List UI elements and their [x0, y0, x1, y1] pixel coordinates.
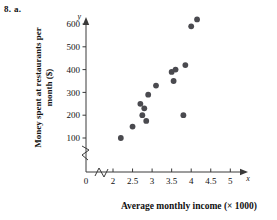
- axis-letters-group: yx: [76, 12, 250, 183]
- y-axis-variable-letter: y: [76, 12, 81, 21]
- x-axis-tick-label: 4: [189, 176, 194, 186]
- data-point: [182, 62, 188, 68]
- x-axis-tick-label: 2.5: [127, 176, 139, 186]
- axis-tick-labels-group: 10020030040050060022.533.544.550: [67, 19, 234, 186]
- x-axis-tick-label: 5: [228, 176, 233, 186]
- data-points-group: [118, 17, 200, 141]
- x-axis-break-mark: [95, 168, 108, 177]
- data-point: [188, 23, 194, 29]
- data-point: [143, 118, 149, 124]
- y-axis-tick-label: 100: [67, 133, 81, 143]
- data-point: [130, 124, 136, 130]
- data-point: [139, 112, 145, 118]
- data-point: [141, 105, 147, 111]
- x-axis-tick-label: 2: [111, 176, 116, 186]
- y-axis-tick-label: 300: [67, 88, 81, 98]
- data-point: [173, 67, 179, 73]
- data-point: [194, 17, 200, 23]
- data-point: [137, 101, 143, 107]
- data-point: [171, 78, 177, 84]
- axis-ticks-group: [83, 24, 231, 172]
- data-point: [180, 112, 186, 118]
- axes-group: [83, 17, 248, 175]
- x-axis-variable-letter: x: [245, 174, 250, 183]
- x-axis-label: Average monthly income (× 1000): [104, 201, 274, 211]
- figure-container: 8. a. Money spent at restaurants per mon…: [0, 0, 277, 220]
- x-axis-tick-label: 4.5: [205, 176, 217, 186]
- y-axis-break-mark: [82, 146, 89, 160]
- data-point: [145, 92, 151, 98]
- y-axis-tick-label: 500: [67, 42, 81, 52]
- data-point: [153, 83, 159, 89]
- scatter-plot: 10020030040050060022.533.544.550 yx: [0, 0, 277, 220]
- x-axis-tick-label: 3: [150, 176, 155, 186]
- data-point: [118, 135, 124, 141]
- x-axis-tick-label: 3.5: [166, 176, 178, 186]
- y-axis-tick-label: 400: [67, 65, 81, 75]
- y-axis-tick-label: 200: [67, 110, 81, 120]
- origin-label: 0: [84, 176, 89, 186]
